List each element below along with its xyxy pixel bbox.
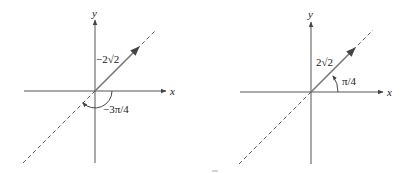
magnitude-label: 2√2	[316, 56, 333, 68]
angle-arc	[333, 76, 338, 92]
y-axis-label: y	[307, 8, 313, 20]
x-axis-label: x	[169, 85, 175, 97]
angle-label: −3π/4	[103, 103, 129, 115]
right-figure: x y 2√2 π/4	[239, 8, 392, 164]
y-axis-label: y	[91, 7, 97, 19]
x-axis-label: x	[386, 86, 392, 98]
polar-diagrams: x y −2√2 −3π/4 x y 2√2 π/4	[0, 0, 404, 173]
angle-label: π/4	[342, 75, 357, 87]
magnitude-label: −2√2	[96, 53, 119, 65]
left-figure: x y −2√2 −3π/4	[23, 7, 175, 163]
